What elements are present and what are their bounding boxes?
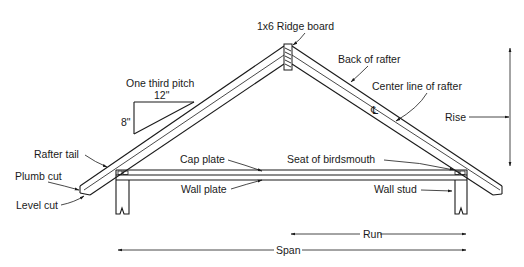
rafter-tail-label: Rafter tail [34,148,79,160]
pitch-rise-label: 8" [121,116,131,128]
ridge-board [284,44,292,70]
span-label: Span [276,244,301,256]
pitch-run-label: 12" [154,89,170,101]
wall-plate-label: Wall plate [181,183,227,195]
right-wall-stud [455,180,467,214]
cap-plate-label: Cap plate [180,153,225,165]
level-cut-label: Level cut [16,199,58,211]
plates [116,170,467,180]
pitch-triangle [134,102,194,134]
plumb-cut-label: Plumb cut [15,170,62,182]
run-dimension: Run [291,228,466,240]
run-label: Run [363,228,382,240]
roof-framing-diagram: One third pitch 12" 8" 1x6 Ridge board B… [0,0,524,267]
rise-label: Rise [445,111,466,123]
center-line-symbol: ℄ [370,104,378,116]
wall-stud-label: Wall stud [374,183,417,195]
left-wall-stud [116,180,129,214]
ridge-board-label: 1x6 Ridge board [257,20,334,32]
seat-of-birdsmouth-label: Seat of birdsmouth [287,153,375,165]
span-dimension: Span [118,244,466,256]
back-of-rafter-label: Back of rafter [338,53,401,65]
center-line-of-rafter-label: Center line of rafter [372,80,462,92]
left-rafter [80,46,284,195]
one-third-pitch-label: One third pitch [126,77,194,89]
